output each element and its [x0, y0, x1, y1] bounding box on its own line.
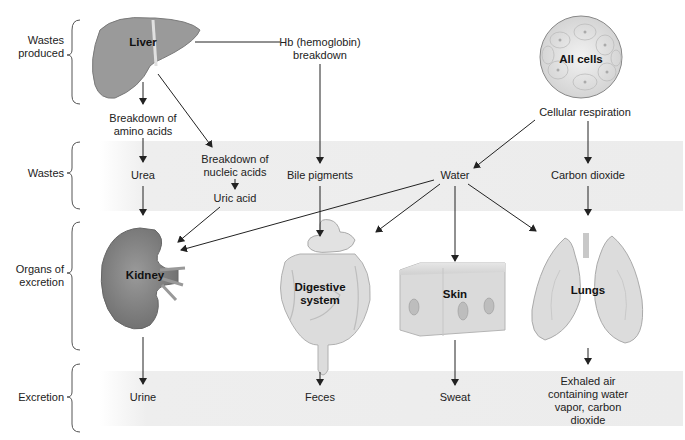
- urea-label: Urea: [118, 169, 168, 182]
- feces-label: Feces: [295, 391, 345, 404]
- row-label-wastes: Wastes: [4, 167, 64, 180]
- kidney-label: Kidney: [120, 269, 170, 282]
- hb-breakdown-label: Hb (hemoglobin) breakdown: [270, 36, 370, 62]
- arrow-uric-kidney: [178, 207, 220, 242]
- cellular-respiration-label: Cellular respiration: [530, 106, 640, 119]
- diagram-artwork: [0, 0, 685, 440]
- liver-illustration: [92, 18, 200, 99]
- breakdown-nucleic-acids-label: Breakdown of nucleic acids: [190, 153, 280, 179]
- digestive-system-label: Digestive system: [290, 281, 350, 307]
- lungs-label: Lungs: [560, 284, 616, 297]
- arrow-water-lungs: [468, 184, 536, 231]
- urine-label: Urine: [118, 391, 168, 404]
- arrow-water-digestive: [376, 184, 440, 232]
- carbon-dioxide-label: Carbon dioxide: [548, 169, 628, 182]
- breakdown-amino-acids-label: Breakdown of amino acids: [98, 112, 188, 138]
- row-label-organs-of-excretion: Organs of excretion: [4, 263, 64, 289]
- brace-wastes-produced: [67, 20, 80, 104]
- bile-pigments-label: Bile pigments: [280, 169, 360, 182]
- row-label-wastes-produced: Wastes produced: [4, 34, 64, 60]
- skin-label: Skin: [430, 288, 480, 301]
- uric-acid-label: Uric acid: [200, 192, 270, 205]
- brace-organs: [67, 222, 80, 350]
- brace-excretion: [67, 364, 80, 432]
- water-label: Water: [430, 169, 480, 182]
- arrow-water-kidney: [181, 180, 434, 250]
- row-label-excretion: Excretion: [4, 391, 64, 404]
- exhaled-air-label: Exhaled air containing water vapor, carb…: [543, 375, 633, 427]
- all-cells-label: All cells: [551, 53, 611, 66]
- liver-label: Liver: [118, 36, 168, 49]
- brace-wastes: [67, 142, 80, 209]
- arrow-resp-water: [474, 120, 535, 168]
- sweat-label: Sweat: [430, 391, 480, 404]
